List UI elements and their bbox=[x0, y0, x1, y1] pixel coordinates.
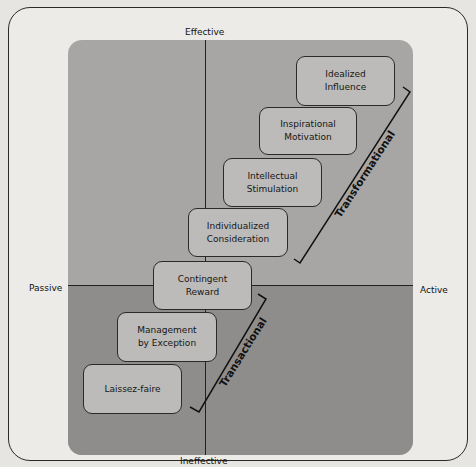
group-brackets bbox=[0, 0, 476, 467]
transactional-bracket bbox=[190, 294, 266, 412]
transformational-bracket bbox=[294, 87, 410, 263]
